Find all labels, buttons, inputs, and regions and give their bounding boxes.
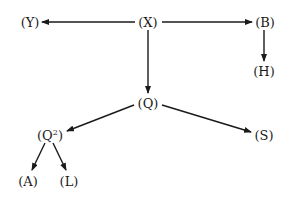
node-x: (X) <box>138 15 157 30</box>
node-q2: (Q2) <box>37 128 63 143</box>
node-l: (L) <box>60 174 79 189</box>
node-s: (S) <box>254 128 273 143</box>
tree-diagram: (X)(Y)(B)(H)(Q)(Q2)(S)(A)(L) <box>0 0 289 199</box>
node-a: (A) <box>18 174 38 189</box>
node-h: (H) <box>253 64 274 79</box>
node-y: (Y) <box>21 15 40 30</box>
node-label-close: ) <box>58 128 63 143</box>
nodes: (X)(Y)(B)(H)(Q)(Q2)(S)(A)(L) <box>18 15 275 189</box>
edge-q2-to-l <box>53 143 66 170</box>
edge-q-to-s <box>162 105 251 132</box>
edge-q-to-q2 <box>67 105 134 131</box>
node-q: (Q) <box>138 96 159 111</box>
edge-q2-to-a <box>32 143 45 170</box>
node-label-text: (Q <box>37 128 53 143</box>
node-b: (B) <box>255 15 275 30</box>
